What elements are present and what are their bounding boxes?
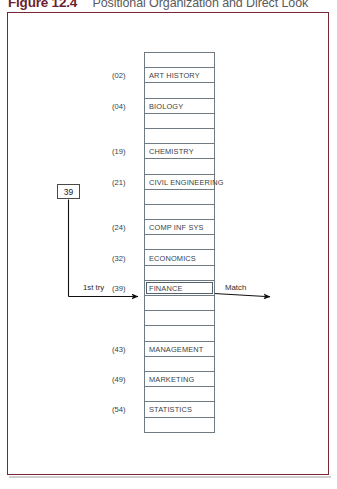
first-try-label: 1st try (83, 283, 104, 292)
table-row (145, 129, 214, 144)
table-row (145, 418, 214, 433)
row-index: (43) (112, 344, 126, 353)
row-index: (32) (112, 253, 126, 262)
table-row: (04)BIOLOGY (145, 99, 214, 114)
table-row (145, 235, 214, 250)
table-row (145, 205, 214, 220)
table-row (145, 266, 214, 281)
row-label: FINANCE (149, 283, 183, 292)
table-row (145, 114, 214, 129)
search-key-box: 39 (57, 184, 80, 199)
positional-table: (02)ART HISTORY(04)BIOLOGY(19)CHEMISTRY(… (144, 52, 215, 433)
table-row: (21)CIVIL ENGINEERING (145, 175, 214, 190)
row-index: (24) (112, 223, 126, 232)
table-row (145, 296, 214, 311)
row-index: (39) (112, 283, 126, 292)
table-row (145, 190, 214, 205)
match-label: Match (225, 283, 246, 292)
row-label: CIVIL ENGINEERING (149, 177, 224, 186)
row-index: (49) (112, 375, 126, 384)
table-row: (24)COMP INF SYS (145, 220, 214, 235)
row-index: (21) (112, 177, 126, 186)
figure-frame-shadow (9, 476, 331, 478)
table-row (145, 357, 214, 372)
figure-number: Figure 12.4 (8, 0, 77, 10)
row-index: (19) (112, 147, 126, 156)
figure-title: Positional Organization and Direct Look (93, 0, 309, 10)
table-row: (54)STATISTICS (145, 402, 214, 417)
row-index: (02) (112, 71, 126, 80)
row-label: CHEMISTRY (149, 147, 194, 156)
table-row (145, 83, 214, 98)
table-row (145, 326, 214, 341)
row-label: STATISTICS (149, 405, 192, 414)
table-row (145, 159, 214, 174)
table-row: (43)MANAGEMENT (145, 342, 214, 357)
table-row: (32)ECONOMICS (145, 250, 214, 265)
table-row (145, 311, 214, 326)
row-index: (04) (112, 101, 126, 110)
table-row (145, 387, 214, 402)
table-row: (02)ART HISTORY (145, 68, 214, 83)
table-row: (39)FINANCE (145, 281, 214, 296)
row-index: (54) (112, 405, 126, 414)
row-label: MANAGEMENT (149, 344, 203, 353)
row-label: COMP INF SYS (149, 223, 204, 232)
row-label: ECONOMICS (149, 253, 196, 262)
table-row: (19)CHEMISTRY (145, 144, 214, 159)
row-label: BIOLOGY (149, 101, 183, 110)
row-label: ART HISTORY (149, 71, 200, 80)
table-row (145, 53, 214, 68)
table-row: (49)MARKETING (145, 372, 214, 387)
row-label: MARKETING (149, 375, 194, 384)
